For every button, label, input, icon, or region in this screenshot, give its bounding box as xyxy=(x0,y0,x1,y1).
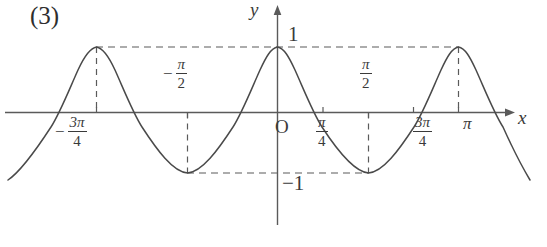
fraction-denominator: 4 xyxy=(68,132,87,150)
fraction-denominator: 2 xyxy=(360,74,372,92)
tick-label-neg-three-pi-over-four: − 3π 4 xyxy=(55,114,87,150)
y-axis xyxy=(274,5,282,225)
fraction-numerator: π xyxy=(316,114,328,132)
tick-label-three-pi-over-four: 3π 4 xyxy=(413,114,432,150)
item-number: (3) xyxy=(30,3,59,28)
fraction-numerator: π xyxy=(176,56,188,74)
cosine-graph-figure: (3) y x O 1 −1 − 3π 4 − π 2 π 4 xyxy=(0,0,547,247)
origin-label: O xyxy=(275,117,289,136)
tick-label-pi: π xyxy=(463,115,472,132)
fraction-denominator: 4 xyxy=(413,132,432,150)
tick-label-pi-over-four: π 4 xyxy=(316,114,328,150)
tick-label-pi-over-two: π 2 xyxy=(360,56,372,92)
x-axis-label: x xyxy=(518,108,526,127)
y-value-negative-one-label: −1 xyxy=(282,173,304,194)
fraction-numerator: 3π xyxy=(68,114,87,132)
tick-label-neg-pi-over-two: − π 2 xyxy=(163,56,187,92)
fraction-denominator: 2 xyxy=(176,74,188,92)
y-axis-label: y xyxy=(250,0,258,19)
fraction-numerator: 3π xyxy=(413,114,432,132)
fraction-numerator: π xyxy=(360,56,372,74)
y-value-one-label: 1 xyxy=(288,24,299,45)
minus-sign: − xyxy=(55,123,65,140)
fraction-denominator: 4 xyxy=(316,132,328,150)
minus-sign: − xyxy=(163,65,173,82)
